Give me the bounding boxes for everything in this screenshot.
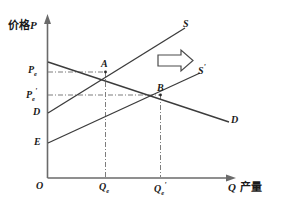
- equilibrium-point-a-marker: [104, 71, 107, 74]
- y-axis-arrowhead: [44, 14, 51, 24]
- y-intercept-label-e: E: [34, 137, 41, 147]
- y-axis-title-cn: 价格: [8, 19, 30, 31]
- y-tick-pe-prime-subscript: e: [32, 95, 35, 102]
- curve-label-d: D: [231, 115, 238, 125]
- y-tick-pe-prime-mark: ': [35, 87, 37, 96]
- supply-curve-s-prime: [48, 73, 200, 143]
- x-axis-title-symbol: Q: [228, 181, 236, 193]
- y-tick-label-pe: Pe: [28, 65, 37, 78]
- origin-label: O: [36, 181, 43, 191]
- curve-label-s: S: [183, 19, 189, 29]
- point-label-b: B: [157, 83, 164, 93]
- x-tick-label-qe-prime: Qe': [154, 182, 166, 197]
- y-intercept-label-d: D: [33, 107, 40, 117]
- curve-label-s-prime: S': [198, 64, 206, 76]
- y-axis-title: 价格P: [8, 20, 37, 31]
- y-axis-title-symbol: P: [30, 19, 37, 31]
- x-tick-qe-prime-mark: ': [164, 181, 166, 190]
- x-tick-qe-subscript: e: [106, 187, 109, 194]
- y-tick-pe-subscript: e: [34, 70, 37, 77]
- x-axis-title-cn: 产量: [240, 181, 262, 193]
- curve-label-s-prime-mark: ': [204, 63, 206, 72]
- x-tick-label-qe: Qe: [99, 182, 109, 195]
- shift-block-arrow-icon: [158, 50, 193, 71]
- equilibrium-point-b-marker: [159, 94, 162, 97]
- y-tick-label-pe-prime: Pe': [26, 88, 37, 103]
- supply-demand-chart: 价格P Q产量 O Pe Pe' D E Qe Qe' S S' D A B: [0, 0, 281, 218]
- x-tick-qe-prime-subscript: e: [161, 189, 164, 196]
- point-label-a: A: [101, 59, 108, 69]
- guide-lines: [48, 72, 161, 177]
- x-axis-title: Q产量: [228, 182, 262, 193]
